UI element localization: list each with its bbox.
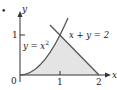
x-tick-label-2: 2 bbox=[96, 77, 102, 87]
x-tick-label-1: 1 bbox=[57, 77, 63, 87]
line-equation-label: x + y = 2 bbox=[69, 30, 109, 40]
parabola-equation-label: y = x2 bbox=[22, 39, 49, 51]
x-axis-label: x bbox=[112, 70, 117, 80]
bullet: • bbox=[1, 6, 6, 16]
y-axis-label: y bbox=[21, 4, 28, 14]
region-diagram: • y x 0 1 2 1 y = x2 x + y = 2 bbox=[0, 0, 117, 90]
y-tick-label-1: 1 bbox=[12, 30, 18, 40]
origin-label: 0 bbox=[11, 76, 17, 86]
x-axis-arrow-icon bbox=[105, 73, 111, 78]
